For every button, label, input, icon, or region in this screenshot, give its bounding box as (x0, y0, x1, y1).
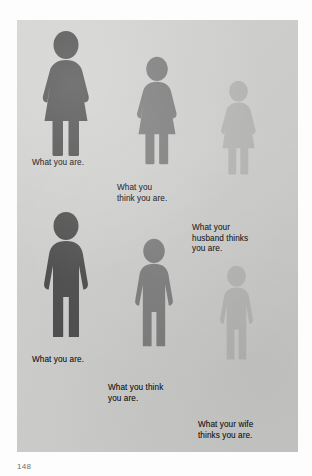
caption-man-actual: What you are. (32, 355, 84, 366)
caption-woman-actual: What you are. (32, 158, 84, 169)
caption-woman-self-image: What you think you are. (117, 183, 167, 204)
scanned-page: What you are. What you think you are. Wh… (0, 0, 312, 476)
male-pictogram-icon (213, 265, 260, 361)
caption-man-wife-image: What your wife thinks you are. (198, 420, 253, 441)
illustration-plate: What you are. What you think you are. Wh… (17, 20, 298, 452)
caption-man-self-image: What you think you are. (108, 383, 163, 404)
male-pictogram-icon (35, 211, 97, 339)
page-number: 148 (17, 462, 31, 471)
caption-woman-husband-image: What your husband thinks you are. (192, 223, 248, 255)
male-pictogram-icon (127, 238, 181, 348)
female-pictogram-icon (130, 56, 184, 166)
female-pictogram-icon (215, 80, 262, 176)
female-pictogram-icon (35, 30, 97, 158)
